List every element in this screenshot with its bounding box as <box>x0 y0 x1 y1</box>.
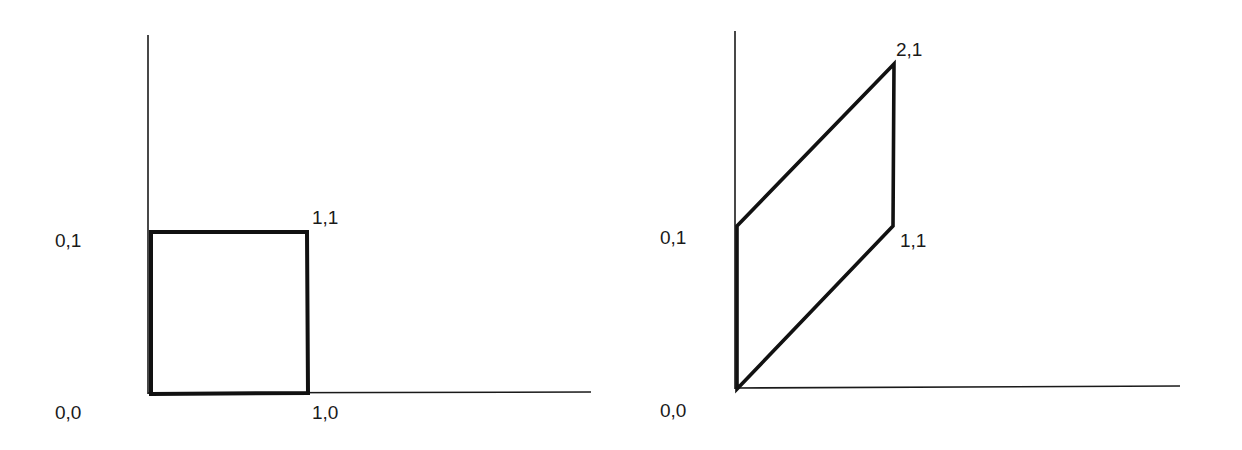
x-axis <box>735 386 1180 388</box>
label-2-1: 2,1 <box>896 39 922 60</box>
label-0-1: 0,1 <box>660 227 686 248</box>
label-1-0: 1,0 <box>312 402 338 423</box>
unit-square <box>151 232 308 394</box>
label-0-0: 0,0 <box>55 402 81 423</box>
panel-transformed: 2,1 1,1 0,1 0,0 <box>660 31 1180 421</box>
label-0-1: 0,1 <box>55 230 81 251</box>
label-1-1: 1,1 <box>900 230 926 251</box>
label-1-1: 1,1 <box>312 207 338 228</box>
label-0-0: 0,0 <box>660 400 686 421</box>
panel-original: 0,1 1,1 0,0 1,0 <box>55 35 591 423</box>
parallelogram <box>737 64 894 389</box>
diagram-canvas: 0,1 1,1 0,0 1,0 2,1 1,1 0,1 0,0 <box>0 0 1242 450</box>
